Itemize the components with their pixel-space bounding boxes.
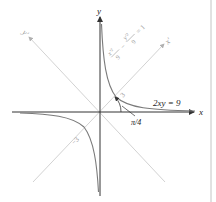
- vertex-label-positive: 3: [119, 91, 127, 99]
- curve-equation-label: 2xy = 9: [153, 98, 181, 108]
- angle-label: π/4: [131, 118, 141, 127]
- rotated-equation: x'² 9 − y'² 9 = 1: [105, 19, 149, 63]
- y-axis-label: y: [96, 6, 101, 16]
- rotated-eq-term1-den: 9: [114, 54, 121, 61]
- x-prime-axis: [33, 44, 164, 182]
- y-prime-axis: [29, 37, 165, 182]
- x-prime-axis-label: x': [162, 36, 173, 47]
- y-prime-axis-label: y': [20, 27, 31, 38]
- vertex-label-negative: −3: [70, 135, 81, 146]
- rotated-eq-minus: −: [119, 42, 127, 50]
- x-axis-label: x: [198, 107, 203, 117]
- rotated-eq-equals: = 1: [135, 23, 148, 36]
- hyperbola-diagram: y x x' y' 2xy = 9 π/4 3 −3 x'² 9 − y'² 9…: [0, 0, 216, 202]
- rotated-eq-term2-den: 9: [130, 38, 137, 45]
- angle-leader-line: [122, 106, 135, 116]
